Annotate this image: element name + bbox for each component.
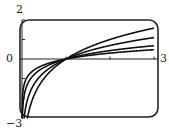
curve-y-log2-x	[27, 28, 154, 118]
x-max-label: 3	[160, 53, 167, 64]
origin-label: 0	[6, 53, 13, 64]
log-functions-chart	[0, 0, 169, 131]
y-min-label: −3	[6, 118, 22, 129]
curves	[22, 28, 154, 118]
curve-y-log10-x	[22, 50, 154, 119]
y-max-label: 2	[16, 4, 23, 15]
